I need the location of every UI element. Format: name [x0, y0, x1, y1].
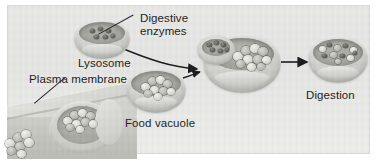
label-digestion: Digestion: [306, 89, 355, 102]
label-digestive-enzymes: Digestive enzymes: [140, 12, 188, 38]
phagocytosis-diagram: Digestive enzymes Lysosome Plasma membra…: [0, 0, 381, 166]
label-lysosome: Lysosome: [78, 57, 131, 70]
illustration-plate: Digestive enzymes Lysosome Plasma membra…: [7, 5, 370, 154]
digestion-vesicle: [308, 35, 368, 83]
food-vacuole-vesicle: [126, 67, 186, 113]
label-food-vacuole: Food vacuole: [125, 117, 195, 130]
lysosome-vacuole-fusion: [203, 33, 281, 93]
membrane-pocket-lip: [95, 99, 123, 145]
label-plasma-membrane: Plasma membrane: [29, 73, 127, 86]
lysosome-vesicle: [74, 19, 130, 59]
